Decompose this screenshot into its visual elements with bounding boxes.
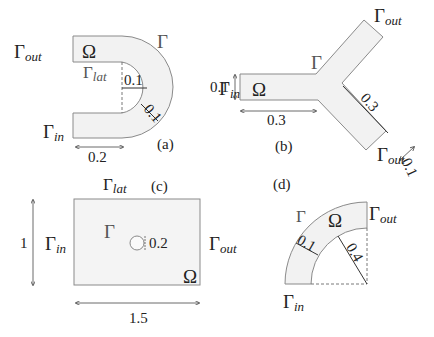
d-panel-tag: (d) [273,177,291,192]
c-cylinder-diameter-label: 0.2 [149,236,168,251]
a-gamma-lat-label: Γlat [83,64,107,83]
a-gamma-label: Γ [157,32,168,51]
c-gamma-lat-label: Γlat [103,176,127,195]
d-gamma-out-label: Γout [369,204,397,225]
c-omega-label: Ω [183,267,197,286]
c-gamma-label: Γ [104,222,115,241]
b-panel-tag: (b) [275,139,293,154]
c-panel-tag: (c) [151,179,168,194]
a-inner-radius-label: 0.1 [124,73,143,88]
a-inlet-length-label: 0.2 [88,150,107,165]
c-width-label: 1.5 [129,311,148,326]
a-panel-tag: (a) [157,137,174,152]
b-omega-label: Ω [252,80,266,99]
d-gamma-in-label: Γin [283,292,304,313]
b-stem-length-label: 0.3 [267,113,286,128]
geometry-figures [0,0,434,337]
a-gamma-in-label: Γin [43,122,64,143]
c-gamma-in-label: Γin [45,234,66,255]
b-gamma-out-top-label: Γout [374,6,402,27]
diagram-stage: Γout Ω Γ Γlat 0.1 0.1 Γin (a) 0.2 Γout Γ… [0,0,434,337]
d-gamma-label: Γ [296,208,306,225]
a-gamma-out-label: Γout [14,42,42,63]
b-gamma-label: Γ [311,53,322,72]
b-gamma-in-label: Γin [219,79,240,100]
c-height-label: 1 [20,236,28,251]
d-omega-label: Ω [328,211,342,230]
c-gamma-out-label: Γout [209,234,237,255]
a-omega-label: Ω [82,42,96,61]
